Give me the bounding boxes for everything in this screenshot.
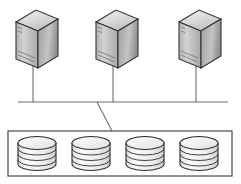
disk-cylinder-icon-3[interactable] bbox=[126, 137, 164, 171]
server-tower-icon-3[interactable] bbox=[179, 10, 221, 68]
diagram-canvas: Shared Storage Architecture bbox=[0, 0, 241, 184]
server-tower-icon-1[interactable] bbox=[16, 10, 58, 68]
storage-array[interactable] bbox=[8, 131, 232, 176]
server-tower-icon-2[interactable] bbox=[96, 10, 138, 68]
disk-cylinder-icon-4[interactable] bbox=[180, 137, 218, 171]
disk-2-top bbox=[72, 137, 110, 150]
disk-4-top bbox=[180, 137, 218, 150]
storage-topology-diagram: Shared Storage Architecture bbox=[0, 0, 241, 184]
disk-3-top bbox=[126, 137, 164, 150]
disk-cylinder-icon-2[interactable] bbox=[72, 137, 110, 171]
disk-1-top bbox=[18, 137, 56, 150]
disk-cylinder-icon-1[interactable] bbox=[18, 137, 56, 171]
